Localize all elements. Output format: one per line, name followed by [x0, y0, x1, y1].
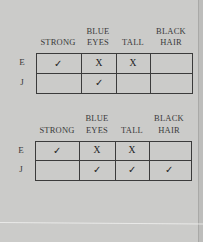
page-edge [198, 0, 203, 242]
column-header-hair-line2: HAIR [160, 37, 182, 48]
column-header-hair-line2: HAIR [158, 125, 180, 136]
column-header-eyes-line2: EYES [86, 125, 108, 136]
row-label-e: E [18, 145, 24, 155]
column-header-strong: STRONG [39, 125, 74, 136]
column-header-strong: STRONG [40, 37, 75, 48]
cell-e-strong: ✓ [53, 146, 61, 156]
column-header-black-line1: BLACK [154, 113, 184, 124]
page: STRONG BLUE EYES TALL BLACK HAIR E J ✓ X… [0, 0, 198, 242]
row-label-j: J [19, 164, 23, 174]
cell-j-blue-eyes: ✓ [93, 165, 101, 175]
column-header-tall: TALL [121, 125, 143, 136]
column-header-blue-line1: BLUE [86, 113, 109, 124]
cell-j-blue-eyes: ✓ [95, 78, 103, 88]
column-header-black-line1: BLACK [156, 26, 186, 37]
grid-line [37, 73, 192, 74]
cell-j-tall: ✓ [128, 165, 136, 175]
cell-j-black-hair: ✓ [165, 165, 173, 175]
column-header-blue-line1: BLUE [87, 26, 110, 37]
column-header-eyes-line2: EYES [87, 37, 109, 48]
column-header-tall: TALL [122, 37, 144, 48]
grid-line [36, 160, 191, 161]
row-label-j: J [20, 77, 24, 87]
cell-e-tall: X [129, 146, 136, 156]
cell-e-blue-eyes: X [94, 146, 101, 156]
row-label-e: E [19, 57, 25, 67]
cell-e-blue-eyes: X [96, 59, 103, 69]
cell-e-strong: ✓ [54, 59, 62, 69]
cell-e-tall: X [130, 59, 137, 69]
